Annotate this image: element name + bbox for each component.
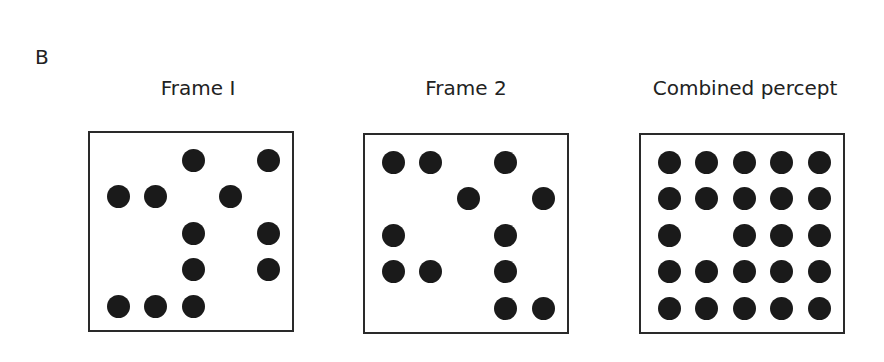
dot — [107, 185, 130, 208]
dot — [808, 151, 831, 174]
dot — [182, 149, 205, 172]
frame-2-box — [363, 133, 569, 334]
dot — [733, 297, 756, 320]
dot — [695, 260, 718, 283]
dot — [382, 260, 405, 283]
dot — [733, 260, 756, 283]
dot — [733, 151, 756, 174]
dot — [219, 185, 242, 208]
dot — [695, 187, 718, 210]
dot — [532, 297, 555, 320]
dot — [808, 260, 831, 283]
dot — [257, 258, 280, 281]
dot — [182, 222, 205, 245]
combined-percept-title: Combined percept — [625, 76, 865, 100]
dot — [658, 260, 681, 283]
dot — [532, 187, 555, 210]
dot — [808, 224, 831, 247]
dot — [770, 187, 793, 210]
dot — [419, 151, 442, 174]
dot — [770, 260, 793, 283]
dot — [658, 187, 681, 210]
dot — [733, 187, 756, 210]
dot — [494, 224, 517, 247]
combined-percept-box — [639, 133, 845, 334]
dot — [494, 260, 517, 283]
dot — [382, 151, 405, 174]
panel-label: B — [35, 45, 49, 69]
dot — [182, 295, 205, 318]
dot — [658, 151, 681, 174]
dot — [494, 151, 517, 174]
dot — [494, 297, 517, 320]
dot — [808, 187, 831, 210]
dot — [733, 224, 756, 247]
dot — [457, 187, 480, 210]
dot — [419, 260, 442, 283]
dot — [257, 222, 280, 245]
dot — [695, 297, 718, 320]
dot — [144, 185, 167, 208]
dot — [695, 151, 718, 174]
frame-1-title: Frame I — [78, 76, 318, 100]
dot — [382, 224, 405, 247]
dot — [770, 151, 793, 174]
dot — [182, 258, 205, 281]
dot — [658, 224, 681, 247]
dot — [107, 295, 130, 318]
dot — [658, 297, 681, 320]
dot — [257, 149, 280, 172]
dot — [770, 224, 793, 247]
frame-2-title: Frame 2 — [346, 76, 586, 100]
dot — [770, 297, 793, 320]
dot — [144, 295, 167, 318]
frame-1-box — [88, 131, 294, 332]
dot — [808, 297, 831, 320]
